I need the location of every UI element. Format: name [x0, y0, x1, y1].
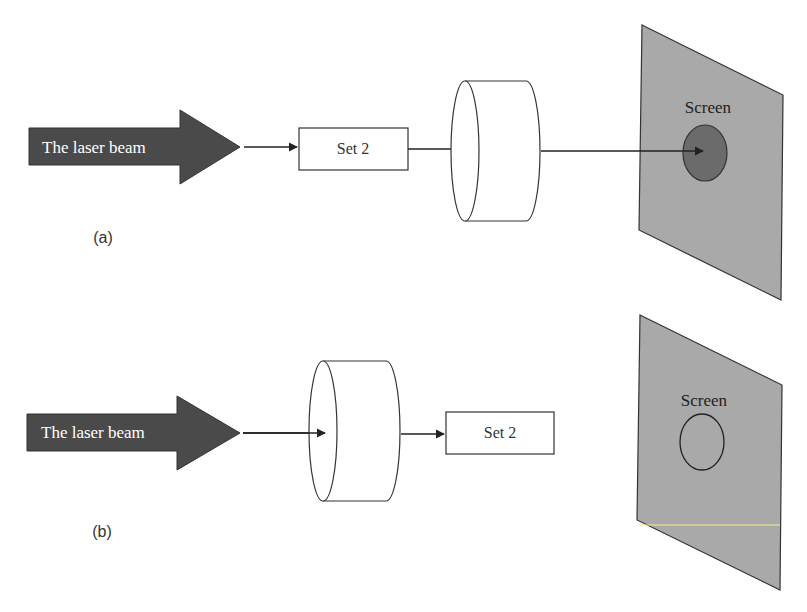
panel-caption-a: (a) [93, 229, 113, 246]
beam-label: The laser beam [42, 138, 146, 157]
laser-beam-arrow-a: The laser beam [29, 110, 240, 184]
laser-spot-filled [683, 125, 727, 181]
screen-a: Screen [639, 25, 783, 300]
panel-a: The laser beam Set 2 Screen (a) [29, 25, 783, 300]
screen-b: Screen [637, 315, 782, 590]
set-2-label: Set 2 [484, 424, 516, 441]
cylinder-a [451, 81, 540, 221]
panel-b: The laser beam Set 2 Screen (b) [27, 315, 782, 590]
cylinder-b [243, 361, 400, 501]
set-2-box-a: Set 2 [299, 128, 408, 170]
screen-label: Screen [681, 391, 728, 410]
set-2-box-b: Set 2 [446, 412, 554, 454]
panel-caption-b: (b) [92, 523, 112, 540]
set-2-label: Set 2 [337, 140, 369, 157]
laser-beam-arrow-b: The laser beam [27, 396, 240, 470]
laser-diagram: The laser beam Set 2 Screen (a) Th [0, 0, 807, 612]
screen-label: Screen [685, 98, 732, 117]
beam-label: The laser beam [41, 423, 145, 442]
